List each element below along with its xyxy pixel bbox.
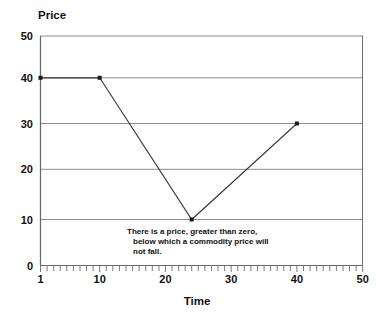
y-tick-label-20: 20 <box>21 163 33 175</box>
y-tick-label-40: 40 <box>21 72 33 84</box>
y-tick-label-50: 50 <box>21 30 33 42</box>
data-point-marker <box>98 76 102 80</box>
x-tick-label-20: 20 <box>159 273 171 285</box>
data-point-marker <box>39 76 43 80</box>
x-axis-title: Time <box>184 295 211 307</box>
x-tick-label-30: 30 <box>225 273 237 285</box>
chart-svg: 50 40 30 20 10 0 1 10 20 30 40 50 Price … <box>0 0 381 315</box>
y-tick-label-0: 0 <box>27 260 33 272</box>
data-point-marker <box>190 218 194 222</box>
annotation-line-2: below which a commodity price will <box>133 237 269 246</box>
annotation-line-1: There is a price, greater than zero, <box>127 227 257 236</box>
y-tick-label-10: 10 <box>21 214 33 226</box>
x-tick-label-40: 40 <box>291 273 303 285</box>
x-tick-label-50: 50 <box>357 273 369 285</box>
price-time-line-chart: 50 40 30 20 10 0 1 10 20 30 40 50 Price … <box>0 0 381 315</box>
data-point-marker <box>295 122 299 126</box>
x-tick-label-10: 10 <box>94 273 106 285</box>
chart-background <box>0 0 381 315</box>
annotation-line-3: not fall. <box>133 247 161 256</box>
x-tick-label-1: 1 <box>37 273 43 285</box>
y-tick-label-30: 30 <box>21 118 33 130</box>
y-axis-title: Price <box>38 9 66 21</box>
